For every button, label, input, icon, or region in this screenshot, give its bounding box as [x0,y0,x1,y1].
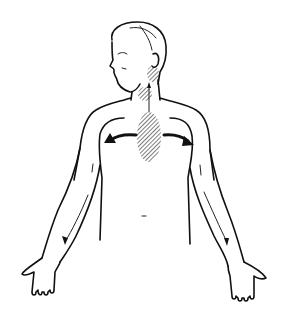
throat-hatch-region [138,87,152,101]
left-arm [22,148,100,295]
jaw-hatch-region [147,66,159,82]
right-arm [190,150,266,301]
arrow-down-right-icon [224,238,229,246]
arrow-right-icon [164,135,194,146]
pain-radiation-figure: Line illustration of a man's upper body … [0,0,286,332]
body-illustration [0,0,286,332]
arrow-left-icon [104,133,136,143]
chest-hatch-region [137,112,161,162]
